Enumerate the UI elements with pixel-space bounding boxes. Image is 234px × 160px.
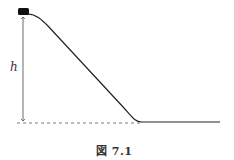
slope-curve bbox=[28, 14, 220, 122]
height-label: h bbox=[10, 60, 18, 74]
sliding-block bbox=[18, 8, 29, 15]
figure-caption: 図 7.1 bbox=[96, 142, 132, 158]
figure-diagram bbox=[0, 0, 234, 160]
